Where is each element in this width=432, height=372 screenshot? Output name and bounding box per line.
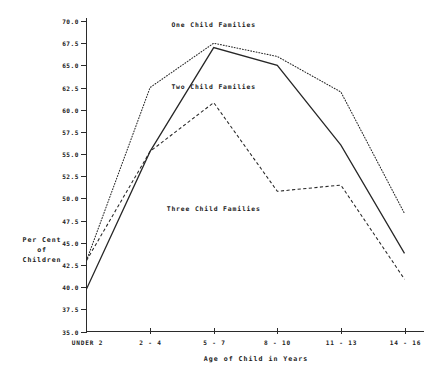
y-tick-label: 70.0 — [62, 18, 79, 25]
series-group — [87, 43, 405, 289]
y-tick-label: 47.5 — [62, 218, 79, 225]
series-label-two-child-families: Two Child Families — [171, 83, 256, 91]
series-line-one-child-families — [87, 43, 405, 260]
y-tick-label: 52.5 — [62, 173, 79, 180]
y-tick-label: 62.5 — [62, 85, 79, 92]
x-tick-label: 2 - 4 — [139, 339, 161, 346]
x-tick-label: 11 - 13 — [326, 339, 357, 346]
y-tick-label: 65.0 — [62, 62, 79, 69]
y-tick-label: 40.0 — [62, 284, 79, 291]
y-axis-tick-labels: 70.067.565.062.560.057.555.052.550.047.5… — [62, 18, 79, 336]
series-line-three-child-families — [87, 103, 405, 280]
y-tick-label: 60.0 — [62, 107, 79, 114]
y-axis-title-line-2: of — [37, 246, 47, 254]
y-axis-title-line-3: Children — [23, 256, 62, 264]
line-chart: 70.067.565.062.560.057.555.052.550.047.5… — [0, 0, 432, 372]
y-axis-title-line-1: Per Cent — [23, 236, 62, 244]
y-tick-label: 35.0 — [62, 329, 79, 336]
series-label-one-child-families: One Child Families — [171, 21, 256, 29]
x-tick-label: 5 - 7 — [203, 339, 225, 346]
y-tick-label: 57.5 — [62, 129, 79, 136]
x-axis-title: Age of Child in Years — [204, 355, 308, 363]
y-tick-label: 50.0 — [62, 195, 79, 202]
y-tick-label: 55.0 — [62, 151, 79, 158]
y-tick-label: 37.5 — [62, 306, 79, 313]
x-tick-label: 8 - 10 — [264, 339, 291, 346]
y-tick-label: 42.5 — [62, 262, 79, 269]
chart-canvas: 70.067.565.062.560.057.555.052.550.047.5… — [0, 0, 432, 372]
series-label-three-child-families: Three Child Families — [167, 205, 261, 213]
y-tick-label: 45.0 — [62, 240, 79, 247]
x-axis-tick-labels: UNDER 22 - 45 - 78 - 1011 - 1314 - 16 — [72, 339, 421, 346]
x-tick-label: UNDER 2 — [72, 339, 103, 346]
x-tick-label: 14 - 16 — [390, 339, 421, 346]
y-tick-label: 67.5 — [62, 40, 79, 47]
